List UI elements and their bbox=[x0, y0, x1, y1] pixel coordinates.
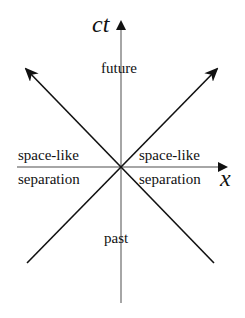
future-label: future bbox=[101, 61, 137, 76]
left-separation-label: separation bbox=[18, 172, 80, 187]
ct-axis-label: ct bbox=[92, 12, 109, 36]
right-spacelike-label: space-like bbox=[139, 148, 200, 163]
left-spacelike-label: space-like bbox=[18, 148, 79, 163]
right-separation-label: separation bbox=[139, 172, 201, 187]
x-axis-label: x bbox=[220, 166, 231, 190]
past-label: past bbox=[104, 231, 128, 246]
light-cone-diagram: ct x future past space-like separation s… bbox=[0, 0, 245, 318]
